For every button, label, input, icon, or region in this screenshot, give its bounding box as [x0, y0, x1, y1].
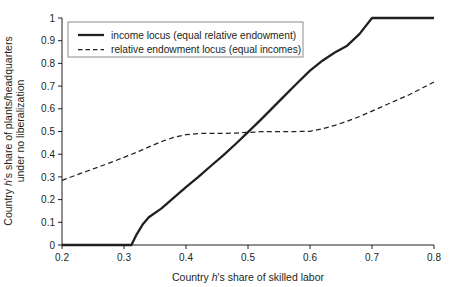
y-tick-label: 0.1 [41, 217, 55, 228]
legend-label: income locus (equal relative endowment) [111, 30, 296, 41]
legend-label: relative endowment locus (equal incomes) [111, 44, 301, 55]
line-chart: 00.10.20.30.40.50.60.70.80.91 0.20.30.40… [0, 0, 451, 287]
y-tick-label: 0 [49, 240, 55, 251]
x-tick-label: 0.8 [427, 252, 441, 263]
y-axis-title-suffix: 's share of plants/headquarters [2, 36, 14, 180]
y-axis-title: Country h's share of plants/headquarters… [2, 36, 26, 225]
y-tick-label: 0.3 [41, 172, 55, 183]
x-axis-ticks: 0.20.30.40.50.60.70.8 [55, 245, 441, 263]
y-tick-label: 0.7 [41, 81, 55, 92]
x-tick-label: 0.6 [303, 252, 317, 263]
y-axis-ticks: 00.10.20.30.40.50.60.70.80.91 [41, 13, 62, 251]
y-tick-label: 0.8 [41, 58, 55, 69]
svg-text:Country h's share of skilled l: Country h's share of skilled labor [172, 271, 325, 283]
y-tick-label: 0.2 [41, 194, 55, 205]
chart-legend: income locus (equal relative endowment)r… [68, 22, 303, 57]
x-axis-title-prefix: Country [172, 271, 212, 283]
y-axis-title-line2: under no liberalization [14, 79, 26, 182]
y-axis-title-prefix: Country [2, 186, 14, 226]
svg-text:Country h's share of plants/he: Country h's share of plants/headquarters [2, 36, 14, 225]
x-axis-title-suffix: 's share of skilled labor [218, 271, 325, 283]
x-tick-label: 0.3 [117, 252, 131, 263]
x-tick-label: 0.7 [365, 252, 379, 263]
chart-figure: 00.10.20.30.40.50.60.70.80.91 0.20.30.40… [0, 0, 451, 287]
y-tick-label: 0.9 [41, 35, 55, 46]
x-tick-label: 0.2 [55, 252, 69, 263]
y-tick-label: 0.6 [41, 103, 55, 114]
y-tick-label: 1 [49, 13, 55, 24]
x-axis-title: Country h's share of skilled labor [172, 271, 325, 283]
x-tick-label: 0.4 [179, 252, 193, 263]
x-tick-label: 0.5 [241, 252, 255, 263]
y-tick-label: 0.5 [41, 126, 55, 137]
y-tick-label: 0.4 [41, 149, 55, 160]
